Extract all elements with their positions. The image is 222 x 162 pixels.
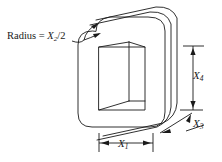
radius-label-prefix: Radius = [7, 30, 47, 41]
core-window-depth-upper-left [99, 42, 129, 47]
figure-drawing [0, 0, 222, 162]
depth-label-subscript: 3 [200, 122, 204, 131]
core-layer-middle [90, 12, 171, 140]
radius-label-suffix: /2 [57, 30, 65, 41]
width-label-variable: X [118, 137, 125, 149]
depth-dimension-label: X3 [193, 118, 203, 131]
width-label-subscript: 1 [125, 142, 129, 151]
core-layer-front [78, 17, 165, 127]
height-dimension-label: X4 [193, 70, 203, 83]
height-label-subscript: 4 [200, 74, 204, 83]
height-label-variable: X [193, 69, 200, 81]
radius-callout-label: Radius = X2/2 [7, 31, 66, 43]
core-window-depth-upper-right [129, 42, 145, 47]
core-dimension-figure: Radius = X2/2 X4 X3 X1 [0, 0, 222, 162]
core-window-depth-diagonal [99, 101, 129, 110]
depth-label-variable: X [193, 117, 200, 129]
width-dimension-label: X1 [118, 138, 128, 151]
